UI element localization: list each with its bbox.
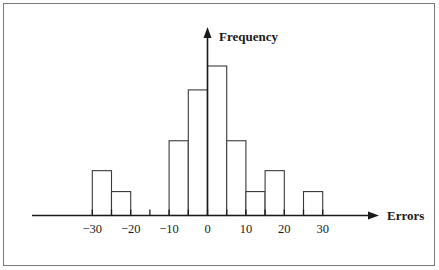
histogram-svg: −30−20−100102030 Errors Frequency bbox=[0, 0, 439, 270]
plot-area: −30−20−100102030 Errors Frequency bbox=[0, 0, 439, 270]
histogram-bar bbox=[304, 192, 323, 216]
x-axis-tick-label: 10 bbox=[240, 222, 253, 236]
screenshot-root: −30−20−100102030 Errors Frequency bbox=[0, 0, 439, 270]
x-axis-tick-label: 0 bbox=[204, 222, 210, 236]
y-axis-title: Frequency bbox=[219, 29, 278, 44]
histogram-bar bbox=[208, 66, 227, 216]
histogram-bar bbox=[92, 171, 111, 216]
y-axis-arrowhead bbox=[204, 27, 212, 38]
x-axis-tick-label: −30 bbox=[83, 222, 103, 236]
histogram-bar bbox=[246, 192, 265, 216]
x-axis-tick-labels: −30−20−100102030 bbox=[83, 222, 329, 236]
histogram-bar bbox=[169, 141, 188, 216]
x-axis-arrowhead bbox=[368, 212, 379, 220]
x-axis-tick-label: 30 bbox=[316, 222, 329, 236]
histogram-bar bbox=[112, 192, 131, 216]
histogram-bar bbox=[265, 171, 284, 216]
histogram-bar bbox=[227, 141, 246, 216]
x-axis-tick-label: −20 bbox=[121, 222, 141, 236]
x-axis-title: Errors bbox=[387, 208, 424, 223]
x-axis-tick-label: −10 bbox=[159, 222, 179, 236]
x-axis-tick-label: 20 bbox=[278, 222, 291, 236]
histogram-bar bbox=[188, 90, 207, 216]
